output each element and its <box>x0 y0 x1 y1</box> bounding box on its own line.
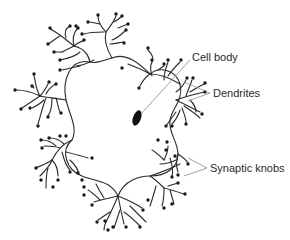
nucleus <box>131 109 144 127</box>
dendrite-lower-left <box>34 134 93 188</box>
synaptic-knobs-leader-lower <box>184 168 207 176</box>
label-synaptic-knobs: Synaptic knobs <box>210 162 285 174</box>
dendrite-top-left <box>46 24 90 62</box>
cell-body-outline <box>65 56 181 196</box>
dendrite-upper-right <box>120 46 182 89</box>
neuron-diagram <box>0 0 290 240</box>
dendrite-lower-right <box>146 138 189 209</box>
synaptic-knobs-leader-upper <box>188 158 207 168</box>
dendrite-right <box>164 76 206 127</box>
dendrite-left <box>13 72 66 127</box>
dendrite-bottom <box>80 178 146 231</box>
label-cell-body: Cell body <box>192 51 238 63</box>
label-dendrites: Dendrites <box>213 87 260 99</box>
dendrites-leader-lower <box>188 93 210 101</box>
